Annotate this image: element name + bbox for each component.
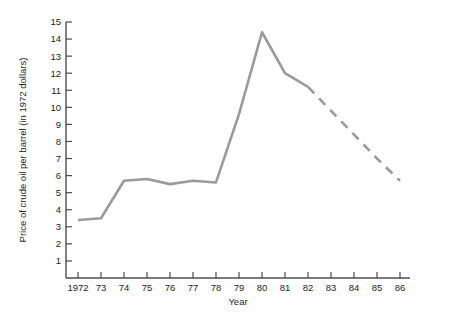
x-tick-label: 84 — [349, 282, 360, 293]
y-tick-label: 9 — [56, 119, 61, 130]
x-axis: 19727374757677787980818283848586 Year — [66, 272, 410, 307]
y-tick-label: 3 — [56, 221, 61, 232]
actual-line — [78, 32, 308, 220]
x-axis-tick-labels: 19727374757677787980818283848586 — [67, 282, 405, 293]
y-tick-label: 1 — [56, 255, 61, 266]
data-series-group — [78, 32, 400, 220]
x-tick-label: 73 — [96, 282, 107, 293]
y-tick-label: 7 — [56, 153, 61, 164]
y-tick-label: 14 — [50, 33, 61, 44]
x-axis-ticks — [78, 272, 400, 278]
chart-container: 123456789101112131415 Price of crude oil… — [0, 0, 450, 321]
x-tick-label: 1972 — [67, 282, 88, 293]
y-tick-label: 8 — [56, 136, 61, 147]
x-tick-label: 85 — [372, 282, 383, 293]
x-tick-label: 75 — [142, 282, 153, 293]
y-axis-ticks — [66, 22, 72, 261]
y-tick-label: 10 — [50, 102, 61, 113]
y-tick-label: 11 — [51, 85, 61, 96]
y-axis-title: Price of crude oil per barrel (in 1972 d… — [17, 58, 28, 243]
x-tick-label: 78 — [211, 282, 222, 293]
x-tick-label: 83 — [326, 282, 337, 293]
x-tick-label: 74 — [119, 282, 130, 293]
x-tick-label: 81 — [280, 282, 291, 293]
y-tick-label: 6 — [56, 170, 61, 181]
y-tick-label: 4 — [56, 204, 61, 215]
y-tick-label: 12 — [50, 68, 61, 79]
line-chart: 123456789101112131415 Price of crude oil… — [0, 0, 450, 321]
y-tick-label: 13 — [50, 51, 61, 62]
x-tick-label: 82 — [303, 282, 314, 293]
y-tick-label: 2 — [56, 238, 61, 249]
x-tick-label: 76 — [165, 282, 176, 293]
x-tick-label: 77 — [188, 282, 199, 293]
x-tick-label: 86 — [395, 282, 406, 293]
y-tick-label: 15 — [50, 16, 61, 27]
y-axis-tick-labels: 123456789101112131415 — [50, 16, 61, 266]
x-tick-label: 79 — [234, 282, 245, 293]
projected-line — [308, 87, 400, 181]
x-axis-title: Year — [228, 296, 247, 307]
y-tick-label: 5 — [56, 187, 61, 198]
x-tick-label: 80 — [257, 282, 268, 293]
y-axis: 123456789101112131415 Price of crude oil… — [17, 16, 72, 278]
